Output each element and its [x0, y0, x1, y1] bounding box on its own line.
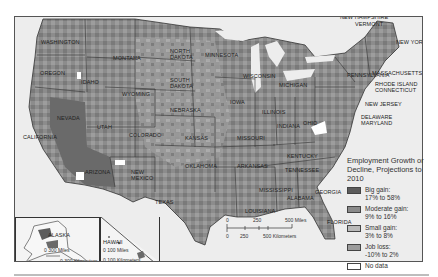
- scale-miles-250: 250: [253, 217, 261, 223]
- callout-maryland: MARYLAND: [361, 120, 392, 126]
- callout-massachusetts: MASSACHUSETTS: [372, 70, 422, 76]
- legend: Employment Growth or Decline, Projection…: [347, 156, 425, 270]
- state-label-kansas: KANSAS: [185, 135, 208, 141]
- scale-miles-0: 0: [226, 217, 229, 223]
- state-label-kentucky: KENTUCKY: [287, 153, 318, 159]
- alaska-label: ALASKA: [48, 232, 70, 238]
- no-data-patch: [115, 160, 125, 165]
- state-label-idaho: IDAHO: [81, 79, 99, 85]
- state-label-utah: UTAH: [97, 124, 112, 130]
- state-label-michigan: MICHIGAN: [279, 82, 307, 88]
- no-data-patch: [76, 172, 84, 180]
- state-label-arkansas: ARKANSAS: [237, 163, 268, 169]
- legend-item-moderate-gain: Moderate gain:9% to 16%: [347, 205, 425, 221]
- state-label-indiana: INDIANA: [277, 123, 300, 129]
- state-label-minnesota: MINNESOTA: [205, 52, 238, 58]
- hawaii-scale-miles: 0 100 Miles: [103, 247, 129, 253]
- legend-swatch: [347, 225, 361, 232]
- state-label-illinois: ILLINOIS: [262, 109, 285, 115]
- scale-bar: [227, 224, 292, 232]
- state-label-montana: MONTANA: [113, 55, 141, 61]
- state-label-nevada: NEVADA: [57, 115, 80, 121]
- legend-range: 3% to 8%: [365, 232, 393, 239]
- state-label-missouri: MISSOURI: [237, 135, 265, 141]
- state-label-colorado: COLORADO: [129, 132, 161, 138]
- state-label-iowa: IOWA: [230, 99, 245, 105]
- callout-vermont: VERMONT: [355, 21, 383, 27]
- legend-label: Job loss:: [365, 243, 391, 250]
- callout-connecticut: CONNECTICUT: [375, 87, 416, 93]
- legend-title: Employment Growth or Decline, Projection…: [347, 156, 425, 183]
- state-label-south-dakota: SOUTH DAKOTA: [170, 77, 200, 89]
- legend-range: 9% to 16%: [365, 213, 396, 220]
- legend-label: Big gain:: [365, 186, 390, 193]
- state-label-georgia: GEORGIA: [315, 189, 341, 195]
- legend-range: -10% to 2%: [365, 251, 399, 258]
- hawaii-label: HAWAII: [103, 239, 123, 245]
- state-label-wyoming: WYOMING: [122, 91, 150, 97]
- state-label-new-mexico: NEW MEXICO: [131, 169, 153, 181]
- bottom-divider: [14, 274, 429, 276]
- legend-label: Moderate gain:: [365, 205, 408, 212]
- state-label-wisconsin: WISCONSIN: [243, 73, 276, 79]
- state-label-oklahoma: OKLAHOMA: [185, 163, 217, 169]
- state-label-maine: NEW YORK: [396, 39, 423, 45]
- state-label-arizona: ARIZONA: [85, 169, 110, 175]
- scale-km-0: 0: [226, 233, 229, 239]
- legend-swatch: [347, 244, 361, 251]
- state-label-washington: WASHINGTON: [41, 39, 80, 45]
- alaska-inset: ALASKA 0 300 Miles 0 300 Kilometers: [15, 217, 100, 262]
- hawaii-inset: HAWAII 0 100 Miles 0 100 Kilometers: [100, 217, 160, 262]
- state-label-alabama: ALABAMA: [287, 195, 314, 201]
- legend-range: 17% to 58%: [365, 194, 400, 201]
- hawaii-scale-km: 0 100 Kilometers: [103, 257, 141, 262]
- state-label-north-dakota: NORTH DAKOTA: [170, 48, 200, 60]
- legend-item-job-loss: Job loss:-10% to 2%: [347, 243, 425, 259]
- scale-km-250: 250: [240, 233, 248, 239]
- state-label-new-york: PENNSYLVANIA: [347, 72, 365, 78]
- alaska-shape: [16, 218, 101, 262]
- state-label-mississippi: MISSISSIPPI: [259, 187, 293, 193]
- state-label-texas: TEXAS: [155, 199, 174, 205]
- alaska-scale-miles: 0 300 Miles: [44, 247, 70, 253]
- state-label-california: CALIFORNIA: [23, 134, 57, 140]
- legend-label: No data: [365, 262, 388, 270]
- scale-miles-500: 500 Miles: [285, 217, 306, 223]
- state-label-oregon: OREGON: [40, 70, 65, 76]
- legend-label: Small gain:: [365, 224, 397, 231]
- callout-new-jersey: NEW JERSEY: [365, 101, 402, 107]
- state-label-ohio: OHIO: [303, 120, 317, 126]
- legend-item-big-gain: Big gain:17% to 58%: [347, 186, 425, 202]
- state-label-nebraska: NEBRASKA: [170, 107, 201, 113]
- alaska-scale-km: 0 300 Kilometers: [60, 258, 98, 262]
- legend-item-small-gain: Small gain:3% to 8%: [347, 224, 425, 240]
- legend-swatch: [347, 206, 361, 213]
- scale-km-500: 500 Kilometers: [263, 233, 296, 239]
- legend-item-no-data: No data: [347, 262, 425, 270]
- callout-new-hampshire: NEW HAMPSHIRE: [340, 16, 388, 20]
- legend-swatch: [347, 187, 361, 194]
- state-label-louisiana: LOUISIANA: [245, 208, 275, 214]
- no-data-patch: [77, 72, 81, 79]
- state-label-tennessee: TENNESSEE: [285, 167, 319, 173]
- legend-swatch: [347, 263, 361, 270]
